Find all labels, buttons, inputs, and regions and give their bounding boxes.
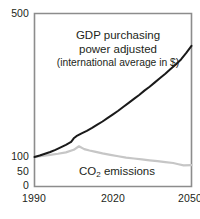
co2-annotation-suffix: emissions — [101, 165, 155, 177]
gdp-annotation-line-3: (international average in $) — [46, 56, 190, 70]
chart-container: 500 100 50 0 1990 2020 2050 GDP purchasi… — [0, 0, 200, 219]
co2-annotation-prefix: CO — [79, 165, 96, 177]
co2-annotation-subscript: 2 — [96, 170, 100, 179]
co2-series-annotation: CO2 emissions — [62, 165, 172, 177]
gdp-annotation-line-2: power adjusted — [46, 43, 190, 57]
gdp-series-annotation: GDP purchasing power adjusted (internati… — [46, 29, 190, 70]
gdp-annotation-line-1: GDP purchasing — [46, 29, 190, 43]
